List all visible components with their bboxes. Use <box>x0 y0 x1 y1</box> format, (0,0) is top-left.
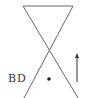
point-dot <box>47 77 51 81</box>
diagram: BD <box>0 0 89 98</box>
arrow-head-icon <box>75 53 79 58</box>
label-bd: BD <box>8 72 27 85</box>
